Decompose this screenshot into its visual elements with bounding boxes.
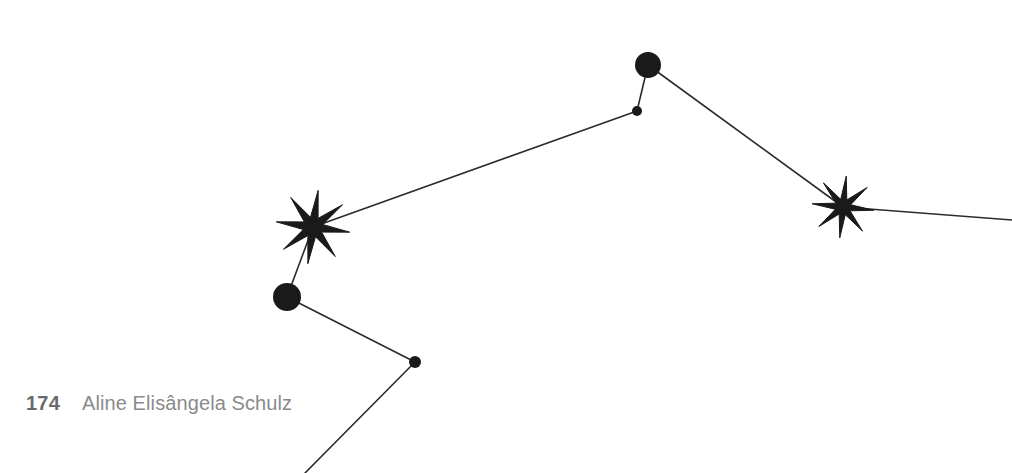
edge-star-left-to-dot-top-small xyxy=(313,111,637,227)
page-footer: 174 Aline Elisângela Schulz xyxy=(26,392,292,415)
node-layer xyxy=(273,52,874,368)
edge-dot-top-large-to-star-right xyxy=(648,65,843,207)
dot-lower-small xyxy=(409,356,421,368)
star-left xyxy=(276,190,349,263)
edge-dot-lower-small-to-bottom-margin xyxy=(305,362,415,473)
dot-top-large xyxy=(635,52,661,78)
running-head-author: Aline Elisângela Schulz xyxy=(82,392,292,415)
page-canvas: 174 Aline Elisângela Schulz xyxy=(0,0,1012,473)
dot-top-small xyxy=(632,106,642,116)
dot-left-large xyxy=(273,283,301,311)
edge-dot-left-large-to-dot-lower-small xyxy=(287,297,415,362)
edge-layer xyxy=(287,65,1012,473)
page-number: 174 xyxy=(26,392,60,415)
star-right xyxy=(812,176,874,238)
